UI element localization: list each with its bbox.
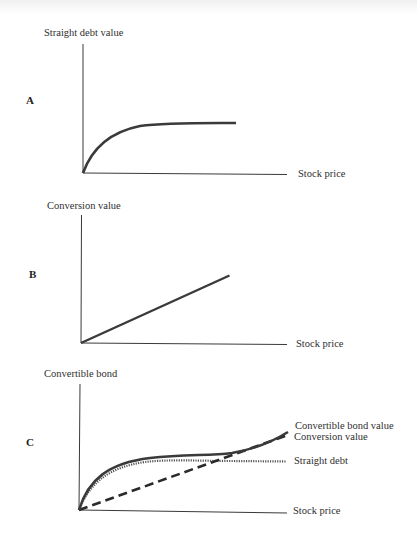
panel-b-x-axis: [81, 343, 287, 345]
panel-a-x-axis-label: Stock price: [298, 168, 346, 179]
panel-a-straight-debt-curve: [83, 123, 236, 173]
panel-b-y-axis-label: Conversion value: [47, 200, 121, 211]
panel-a-y-axis-label: Straight debt value: [44, 27, 123, 38]
diagram-canvas: [0, 0, 417, 548]
panel-b-letter: B: [29, 268, 36, 280]
panel-a-graph: [83, 44, 287, 175]
panel-b-conversion-value-line: [81, 276, 230, 344]
panel-c-y-axis: [79, 384, 80, 510]
panel-c-straight-debt-curve: [79, 460, 286, 510]
legend-conversion-value: Conversion value: [294, 431, 368, 442]
panel-c-y-axis-label: Convertible bond: [44, 368, 117, 379]
panel-b-graph: [81, 215, 287, 345]
panel-c-graph: [79, 384, 288, 513]
panel-b-x-axis-label: Stock price: [296, 338, 344, 349]
panel-a-letter: A: [26, 94, 34, 106]
legend-straight-debt: Straight debt: [294, 455, 348, 466]
panel-c-x-axis-label: Stock price: [293, 505, 341, 516]
panel-c-x-axis: [79, 510, 287, 513]
legend-convertible-bond-value: Convertible bond value: [295, 420, 394, 431]
panel-b-y-axis: [81, 215, 82, 343]
panel-a-x-axis: [83, 173, 287, 175]
panel-c-letter: C: [26, 436, 34, 448]
